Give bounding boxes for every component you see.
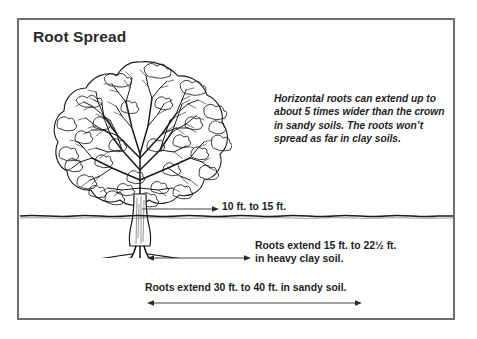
sandy-spread-label: Roots extend 30 ft. to 40 ft. in sandy s… [145,282,347,294]
crown-width-label: 10 ft. to 15 ft. [222,201,286,213]
tree-illustration [52,58,232,258]
clay-spread-label: Roots extend 15 ft. to 22½ ft. in heavy … [255,239,435,266]
clay-spread-label-line2: in heavy clay soil. [255,253,343,264]
page-title: Root Spread [33,29,126,45]
clay-spread-label-line1: Roots extend 15 ft. to 22½ ft. [255,240,396,251]
root-spread-figure: Root Spread [0,0,477,339]
crown-note-text: Horizontal roots can extend up to about … [274,92,452,146]
